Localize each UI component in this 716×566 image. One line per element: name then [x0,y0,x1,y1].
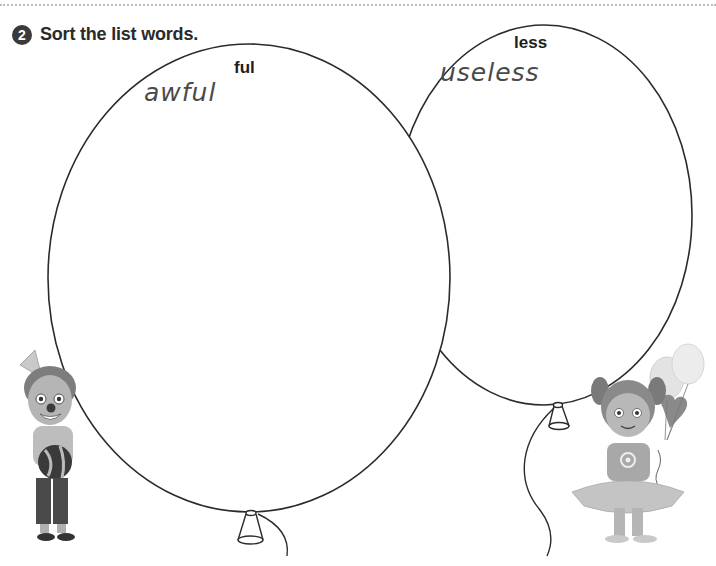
clown-boy-illustration [20,350,76,541]
balloon-ful[interactable] [48,44,450,512]
balloon-scene [0,0,716,566]
balloon-less-suffix-label: less [514,33,547,53]
balloon-ful-suffix-label: ful [234,58,255,78]
balloon-ful-word-1: awful [144,78,216,107]
balloon-less-word-1: useless [440,58,540,87]
balloon-less-knot-icon [524,403,569,557]
balloon-ful-knot-icon [238,511,287,557]
